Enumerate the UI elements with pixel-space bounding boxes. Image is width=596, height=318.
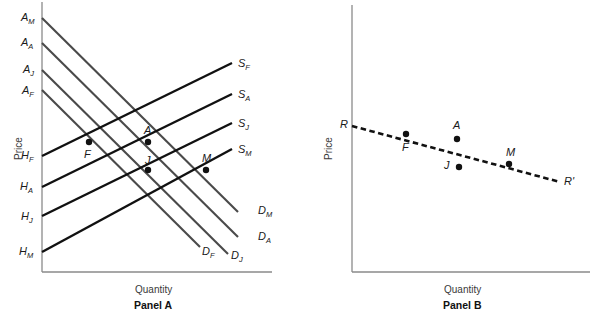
panel-b-axes [352,5,590,272]
point-label-j-panel-b: J [444,160,450,171]
demand-curve-dm [42,18,238,212]
scatter-dot-a [454,136,460,142]
panel-a-y-axis-title: Price [14,137,24,160]
panel-b-x-axis-title: Quantity [444,285,481,295]
supply-curve-sa [42,94,232,187]
intercept-label-aa: AA [21,37,33,51]
point-label-m-panel-b: M [506,147,515,158]
intercept-label-hj: HJ [21,211,33,225]
curve-label-sj: SJ [238,118,249,132]
panel-a-axes [42,2,272,272]
curve-label-dj: DJ [231,250,243,264]
panel-b-y-axis-title: Price [324,137,334,160]
panel-a-caption: Panel A [134,300,172,311]
panel-b-caption: Panel B [443,300,482,311]
point-label-a-panel-b: A [453,120,460,131]
demand-curve-dj [42,70,228,254]
intercept-label-af: AF [22,85,34,99]
curve-label-df: DF [202,246,215,260]
point-label-f-panel-a: F [84,149,91,160]
equilibrium-dot-j [145,167,151,173]
panel-a-x-axis-title: Quantity [135,285,172,295]
equilibrium-dot-m [203,167,209,173]
point-label-a-panel-a: A [144,125,151,136]
equilibrium-dot-f [86,139,92,145]
intercept-label-ha: HA [20,181,33,195]
demand-curve-df [42,90,200,247]
scatter-dot-f [403,131,409,137]
panel-b-regression-line [352,126,560,182]
point-label-j-panel-a: J [145,155,151,166]
curve-label-da: DA [258,231,271,245]
panel-a-demand-curves [42,18,238,254]
regression-start-label-r: R [340,119,348,130]
point-label-m-panel-a: M [202,153,211,164]
regression-end-label-r-prime: R' [564,176,574,187]
equilibrium-dot-a [145,139,151,145]
point-label-f-panel-b: F [402,142,409,153]
curve-label-sa: SA [238,89,250,103]
intercept-label-aj: AJ [23,64,34,78]
curve-label-sm: SM [238,144,252,158]
curve-label-dm: DM [258,205,272,219]
curve-label-sf: SF [238,58,250,72]
scatter-dot-j [456,164,462,170]
intercept-label-am: AM [21,12,35,26]
figure-root: AM AA AJ AF HF HA HJ HM SF SA SJ SM DM D… [0,0,596,318]
scatter-dot-m [506,161,512,167]
supply-curve-sf [42,63,232,156]
intercept-label-hm: HM [19,246,33,260]
